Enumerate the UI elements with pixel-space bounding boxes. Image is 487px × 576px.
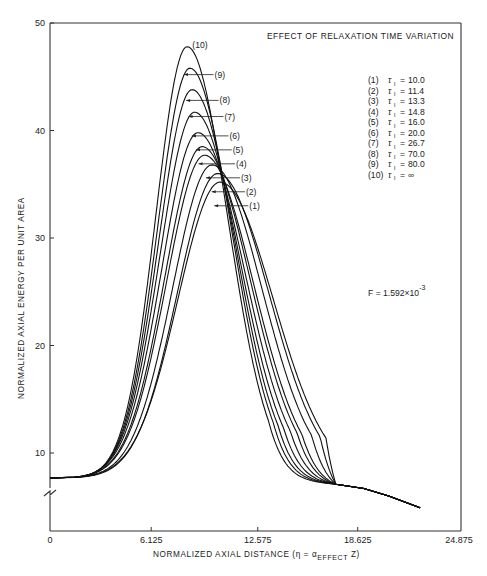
- leader-arrow-icon: [186, 99, 190, 102]
- equals-sign: =: [400, 149, 405, 159]
- curve-label: (6): [229, 131, 240, 141]
- leader-arrow-icon: [212, 190, 216, 193]
- curve-label: (7): [224, 112, 235, 122]
- x-tick-label: 18.625: [344, 535, 372, 545]
- curve-label: (2): [246, 187, 257, 197]
- y-tick-label: 20: [35, 341, 45, 351]
- leader-arrow-icon: [206, 176, 210, 179]
- axis-break-icon: [44, 490, 56, 496]
- tau-subscript: l: [394, 165, 395, 171]
- curve-label: (8): [220, 95, 231, 105]
- legend: (1)τl=10.0(2)τl=11.4(3)τl=13.3(4)τl=14.8…: [368, 75, 425, 181]
- legend-value: 13.3: [408, 96, 425, 106]
- x-tick-label: 6.125: [140, 535, 163, 545]
- y-axis-title: NORMALIZED AXIAL ENERGY PER UNIT AREA: [17, 197, 26, 399]
- tau-subscript: l: [394, 102, 395, 108]
- curve-label: (4): [236, 159, 247, 169]
- tau-subscript: l: [394, 112, 395, 118]
- legend-value: 80.0: [408, 159, 425, 169]
- curve-label: (5): [233, 145, 244, 155]
- leader-arrow-icon: [214, 204, 218, 207]
- curve-4: [50, 155, 420, 508]
- x-ticks: 06.12512.57518.62524.875: [47, 527, 472, 545]
- curve-label: (3): [241, 173, 252, 183]
- curves: [50, 47, 420, 508]
- parameter-annotation: F = 1.592×10-3: [368, 284, 425, 298]
- chart: 1020304050 06.12512.57518.62524.875 (1)(…: [0, 0, 487, 576]
- x-tick-label: 12.575: [244, 535, 272, 545]
- tau-symbol: τ: [388, 117, 392, 127]
- legend-value: ∞: [408, 170, 414, 180]
- tau-symbol: τ: [388, 138, 392, 148]
- curve-6: [50, 133, 420, 508]
- tau-symbol: τ: [388, 159, 392, 169]
- y-tick-label: 10: [35, 448, 45, 458]
- x-tick-label: 0: [47, 535, 52, 545]
- curve-5: [50, 147, 420, 508]
- curve-label: (9): [215, 70, 226, 80]
- curve-label: (1): [249, 201, 260, 211]
- curve-2: [50, 174, 420, 508]
- tau-subscript: l: [394, 144, 395, 150]
- x-axis-title: NORMALIZED AXIAL DISTANCE (η = αEFFECT Z…: [153, 550, 360, 561]
- y-tick-label: 40: [35, 126, 45, 136]
- curve-1: [50, 182, 420, 508]
- equals-sign: =: [400, 75, 405, 85]
- legend-value: 20.0: [408, 128, 425, 138]
- legend-value: 70.0: [408, 149, 425, 159]
- equals-sign: =: [400, 107, 405, 117]
- equals-sign: =: [400, 128, 405, 138]
- curve-10: [50, 47, 420, 508]
- equals-sign: =: [400, 138, 405, 148]
- equals-sign: =: [400, 96, 405, 106]
- curve-labels: (1)(2)(3)(4)(5)(6)(7)(8)(9)(10): [184, 40, 260, 211]
- legend-id: (5): [368, 117, 379, 127]
- tau-subscript: l: [394, 175, 395, 181]
- leader-arrow-icon: [198, 162, 202, 165]
- tau-subscript: l: [394, 133, 395, 139]
- tau-symbol: τ: [388, 75, 392, 85]
- legend-value: 16.0: [408, 117, 425, 127]
- equals-sign: =: [400, 170, 405, 180]
- legend-id: (2): [368, 86, 379, 96]
- legend-value: 26.7: [408, 138, 425, 148]
- legend-id: (9): [368, 159, 379, 169]
- y-ticks: 1020304050: [35, 18, 54, 458]
- legend-value: 11.4: [408, 86, 424, 96]
- legend-value: 14.8: [408, 107, 425, 117]
- tau-symbol: τ: [388, 107, 392, 117]
- tau-symbol: τ: [388, 128, 392, 138]
- chart-title: EFFECT OF RELAXATION TIME VARIATION: [267, 31, 454, 41]
- legend-id: (3): [368, 96, 379, 106]
- tau-subscript: l: [394, 91, 395, 97]
- tau-subscript: l: [394, 123, 395, 129]
- equals-sign: =: [400, 86, 405, 96]
- curve-label: (10): [192, 40, 207, 50]
- y-tick-label: 30: [35, 233, 45, 243]
- legend-id: (7): [368, 138, 379, 148]
- y-tick-label: 50: [35, 18, 45, 28]
- tau-symbol: τ: [388, 86, 392, 96]
- equals-sign: =: [400, 159, 405, 169]
- tau-subscript: l: [394, 81, 395, 87]
- legend-id: (8): [368, 149, 379, 159]
- legend-item: (10)τl=∞: [368, 170, 414, 182]
- tau-subscript: l: [394, 154, 395, 160]
- legend-id: (10): [368, 170, 383, 180]
- tau-symbol: τ: [388, 149, 392, 159]
- legend-id: (1): [368, 75, 379, 85]
- equals-sign: =: [400, 117, 405, 127]
- tau-symbol: τ: [388, 96, 392, 106]
- legend-id: (6): [368, 128, 379, 138]
- x-tick-label: 24.875: [445, 535, 473, 545]
- legend-id: (4): [368, 107, 379, 117]
- legend-value: 10.0: [408, 75, 425, 85]
- curve-7: [50, 112, 420, 508]
- tau-symbol: τ: [388, 170, 392, 180]
